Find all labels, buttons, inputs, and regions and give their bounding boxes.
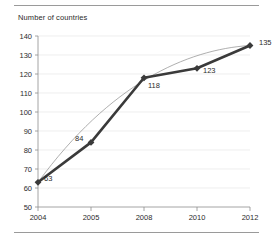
- x-tick-label: 2008: [124, 213, 164, 222]
- data-point-label: 84: [75, 134, 83, 143]
- x-axis-group: [38, 207, 250, 211]
- data-point-label: 135: [259, 38, 272, 47]
- data-series-line: [38, 46, 250, 183]
- x-tick-label: 2004: [18, 213, 58, 222]
- y-tick-label: 60: [10, 184, 32, 193]
- trend-curve-line: [38, 46, 250, 183]
- x-tick-label: 2010: [177, 213, 217, 222]
- data-point-label: 118: [148, 81, 160, 90]
- y-tick-label: 70: [10, 165, 32, 174]
- x-tick-label: 2005: [71, 213, 111, 222]
- chart-figure: Number of countries 14013012011010090807…: [0, 0, 273, 241]
- plot-area: [0, 0, 273, 241]
- y-tick-label: 50: [10, 203, 32, 212]
- data-point-label: 63: [44, 174, 52, 183]
- y-tick-label: 130: [10, 51, 32, 60]
- data-point-markers: [35, 42, 254, 186]
- x-tick-label: 2012: [230, 213, 270, 222]
- data-point-label: 123: [203, 66, 216, 75]
- y-tick-label: 120: [10, 70, 32, 79]
- y-tick-label: 100: [10, 108, 32, 117]
- y-tick-label: 90: [10, 127, 32, 136]
- y-tick-label: 80: [10, 146, 32, 155]
- y-tick-label: 110: [10, 89, 32, 98]
- y-tick-label: 140: [10, 32, 32, 41]
